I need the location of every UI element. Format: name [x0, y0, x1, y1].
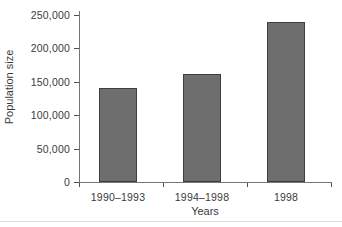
- x-tick-mark: [331, 183, 332, 187]
- x-tick-mark: [163, 183, 164, 187]
- population-bar-chart: Population size Years 050,000100,000150,…: [0, 0, 342, 227]
- y-tick-label: 50,000: [20, 143, 70, 155]
- x-tick-label: 1990–1993: [76, 191, 160, 203]
- y-tick-label: 100,000: [20, 109, 70, 121]
- y-tick-label: 250,000: [20, 9, 70, 21]
- x-tick-mark: [247, 183, 248, 187]
- y-tick-label: 150,000: [20, 76, 70, 88]
- x-tick-label: 1994–1998: [160, 191, 244, 203]
- page-rule-line: [0, 221, 342, 222]
- bar: [267, 22, 305, 182]
- bar: [99, 88, 137, 182]
- x-axis-line: [79, 182, 332, 183]
- y-tick-mark: [74, 48, 79, 49]
- y-tick-label: 200,000: [20, 42, 70, 54]
- y-tick-mark: [74, 15, 79, 16]
- x-tick-label: 1998: [244, 191, 328, 203]
- y-tick-mark: [74, 115, 79, 116]
- x-axis-title: Years: [175, 205, 235, 218]
- x-tick-mark: [79, 183, 80, 187]
- y-tick-mark: [74, 149, 79, 150]
- y-axis-title: Population size: [2, 42, 16, 132]
- y-tick-label: 0: [20, 176, 70, 188]
- bar: [183, 74, 221, 182]
- y-axis-line: [79, 11, 80, 183]
- y-tick-mark: [74, 82, 79, 83]
